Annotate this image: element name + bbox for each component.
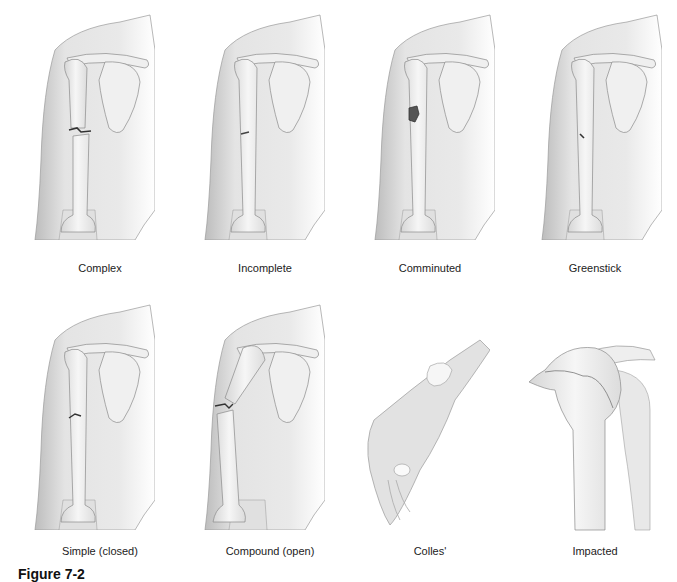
panel-greenstick [532,10,672,250]
arm-illustration-icon [365,10,505,250]
label-compound: Compound (open) [195,545,345,557]
arm-illustration-icon [532,10,672,250]
label-greenstick: Greenstick [520,262,670,274]
label-simple: Simple (closed) [25,545,175,557]
panel-impacted [525,330,665,540]
panel-simple [25,300,165,540]
label-colles: Colles' [355,545,505,557]
figure-caption: Figure 7-2 [18,566,85,582]
arm-illustration-icon [25,300,165,540]
arm-illustration-icon [195,300,335,540]
label-comminuted: Comminuted [355,262,505,274]
arm-illustration-icon [25,10,165,250]
arm-illustration-icon [195,10,335,250]
panel-comminuted [365,10,505,250]
label-complex: Complex [25,262,175,274]
panel-colles [360,330,490,540]
wrist-hand-illustration-icon [360,330,490,540]
label-impacted: Impacted [520,545,670,557]
humerus-head-illustration-icon [525,330,665,540]
panel-compound [195,300,335,540]
panel-incomplete [195,10,335,250]
panel-complex [25,10,165,250]
label-incomplete: Incomplete [190,262,340,274]
